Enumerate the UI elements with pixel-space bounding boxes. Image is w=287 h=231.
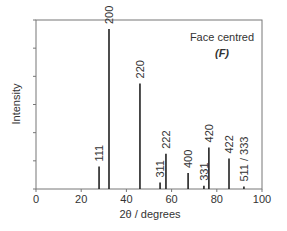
annotation-text: Face centred (190, 31, 254, 43)
peak-label: 400 (182, 150, 194, 168)
x-tick-label: 0 (33, 193, 39, 205)
x-axis-ticks: 020406080100 (33, 189, 271, 205)
xrd-pattern-chart: 020406080100 111200220311222400331420422… (0, 0, 287, 231)
plot-frame (36, 20, 262, 189)
peak-label: 422 (223, 135, 235, 153)
peak-label: 222 (160, 130, 172, 148)
annotation-symbol: (F) (215, 47, 229, 59)
x-axis-label: 2θ / degrees (119, 208, 181, 220)
peak-label: 220 (134, 60, 146, 78)
y-axis-label: Intensity (10, 83, 22, 124)
plot-border (36, 20, 262, 189)
peak-label: 420 (203, 124, 215, 142)
peak-label: 200 (103, 6, 115, 24)
x-tick-label: 100 (253, 193, 271, 205)
peak-label: 111 (93, 145, 105, 162)
x-tick-label: 80 (211, 193, 223, 205)
peak-label: 511 / 333 (238, 137, 250, 182)
peak-label: 331 (198, 162, 210, 180)
x-tick-label: 40 (120, 193, 132, 205)
x-tick-label: 60 (165, 193, 177, 205)
peak-label: 311 (154, 160, 166, 178)
x-tick-label: 20 (75, 193, 87, 205)
